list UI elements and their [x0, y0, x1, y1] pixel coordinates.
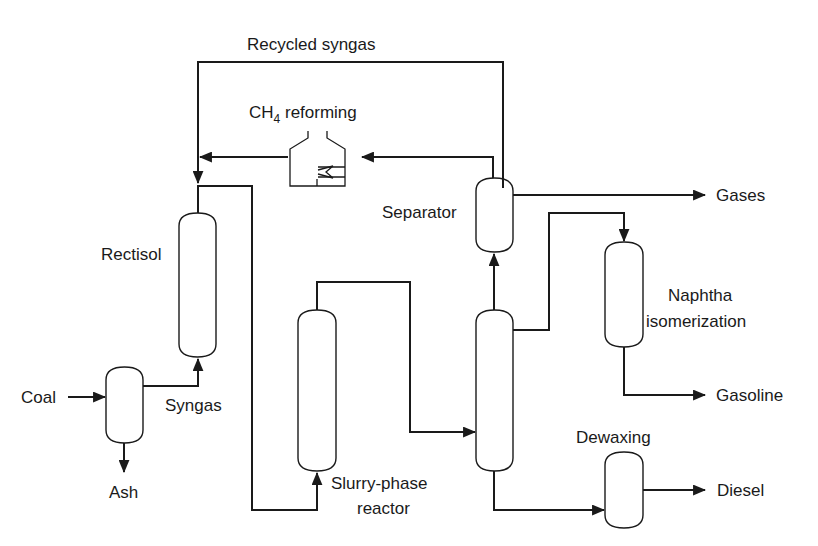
- ch4-reformer-unit: [290, 131, 345, 186]
- dewaxing-vessel: [605, 452, 643, 528]
- label-slurry-phase: Slurry-phase: [331, 474, 427, 493]
- separator-vessel: [476, 178, 513, 252]
- fractionator-to-dewaxing-stream: [494, 471, 604, 510]
- label-dewaxing: Dewaxing: [576, 428, 651, 447]
- label-rectisol: Rectisol: [101, 245, 161, 264]
- label-naphtha: Naphtha: [668, 286, 733, 305]
- label-syngas: Syngas: [165, 396, 222, 415]
- separator-to-reformer-stream: [362, 157, 493, 180]
- gasoline-stream: [624, 347, 705, 395]
- label-recycled-syngas: Recycled syngas: [247, 35, 376, 54]
- label-reactor: reactor: [357, 499, 410, 518]
- naphtha-isomerization-vessel: [605, 242, 643, 347]
- label-diesel: Diesel: [717, 481, 764, 500]
- label-gasoline: Gasoline: [716, 386, 783, 405]
- label-coal: Coal: [21, 388, 56, 407]
- label-separator: Separator: [382, 203, 457, 222]
- heating-coil-icon: [318, 166, 333, 178]
- slurry-phase-reactor-vessel: [298, 310, 336, 471]
- label-isomerization: isomerization: [646, 312, 746, 331]
- label-ch4-reforming: CH4 reforming: [249, 103, 357, 126]
- label-gases: Gases: [716, 186, 765, 205]
- reactor-to-fractionator-stream: [317, 282, 475, 432]
- fractionator-vessel: [476, 310, 513, 471]
- process-flow-diagram: Recycled syngas CH4 reforming Rectisol S…: [0, 0, 818, 546]
- syngas-stream: [143, 359, 198, 386]
- gasifier-vessel: [106, 367, 143, 443]
- recycled-syngas-stream: [198, 62, 503, 188]
- rectisol-vessel: [179, 213, 216, 357]
- label-ash: Ash: [109, 483, 138, 502]
